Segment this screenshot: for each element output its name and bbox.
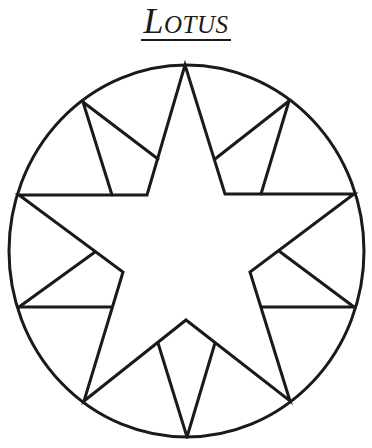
wedge-line: [187, 343, 215, 437]
wedge-line: [261, 101, 289, 194]
wedge-lines: [19, 101, 354, 437]
wedge-line: [215, 101, 289, 159]
wedge-line: [83, 102, 112, 195]
lotus-diagram: [0, 0, 372, 448]
wedge-line: [83, 102, 158, 159]
wedge-line: [158, 343, 187, 437]
wedge-line: [19, 252, 95, 307]
five-point-star: [19, 65, 354, 401]
wedge-line: [279, 251, 354, 307]
outer-circle: [9, 65, 364, 437]
